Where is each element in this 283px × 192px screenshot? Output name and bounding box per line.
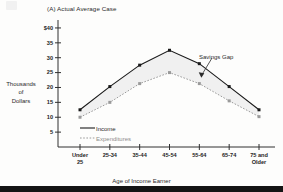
y-axis-tick-label: $40 [31,25,53,31]
y-axis-tick-label: 15 [31,99,53,105]
x-axis-tick-label: 75 andOlder [242,152,276,166]
scan-edge-strip [0,186,283,192]
scan-artifact [6,1,17,10]
y-axis-tick-label: 5 [31,129,53,135]
chart-page: (A) Actual Average Case Thousands of Dol… [0,0,283,192]
y-axis-tick-label: 20 [31,84,53,90]
x-axis-tick-label-line: 75 and [242,152,276,159]
legend-label-expenditures: Expenditures [96,136,131,142]
x-axis-tick-label-line: Older [242,159,276,166]
chart-canvas [52,18,277,155]
chart-title: (A) Actual Average Case [47,5,117,12]
x-axis-tick-label-line: 25 [63,159,97,166]
y-axis-tick-label: 10 [31,114,53,120]
plot-area [52,18,277,155]
y-axis-tick-label: 30 [31,55,53,61]
legend-label-income: Income [96,126,116,132]
savings-gap-annotation-label: Savings Gap [199,54,233,60]
x-axis-title: Age of Income Earner [0,178,283,184]
y-axis-tick-label: 25 [31,69,53,75]
y-axis-tick-label: 35 [31,40,53,46]
